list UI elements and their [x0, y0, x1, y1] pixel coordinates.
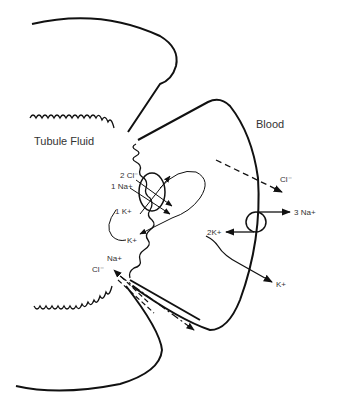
upper-cell-outline: [32, 18, 177, 132]
tubule-fluid-label: Tubule Fluid: [34, 135, 94, 147]
na-pump-label: 3 Na+: [294, 208, 316, 217]
blood-label: Blood: [256, 118, 284, 130]
cl-basolateral-arrow: [216, 160, 282, 192]
main-cell-outline: [132, 100, 259, 330]
k-recycle-label: K+: [127, 236, 137, 245]
paracellular-na-arrow: [114, 270, 148, 302]
lower-cell-outline-upper-edge: [130, 280, 200, 320]
lower-cell-outline: [16, 286, 162, 391]
lower-brush-border: [34, 286, 112, 309]
nephron-cell-diagram: Tubule Fluid Blood 2 Cl⁻ 1 Na+ 1 K+ K+ C…: [0, 0, 339, 403]
k-cotransport-label: 1 K+: [115, 207, 132, 216]
upper-brush-border: [30, 115, 114, 128]
cl-paracellular-label: Cl⁻: [92, 265, 104, 274]
k-pump-label: 2K+: [207, 228, 222, 237]
cl-cotransport-label: 2 Cl⁻: [120, 171, 138, 180]
na-paracellular-label: Na+: [107, 254, 122, 263]
cl-basolateral-label: Cl⁻: [280, 175, 292, 184]
k-basolateral-label: K+: [276, 280, 286, 289]
k-recycle-loop: [140, 171, 205, 234]
na-cotransport-label: 1 Na+: [111, 182, 133, 191]
k-exit-arrow: [206, 236, 272, 282]
